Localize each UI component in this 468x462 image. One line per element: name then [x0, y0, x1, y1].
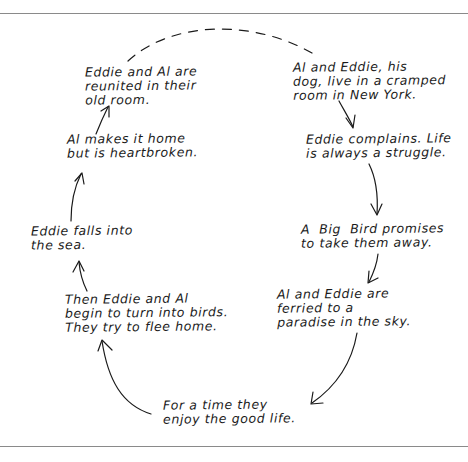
- node-text-line: old room.: [85, 92, 150, 108]
- node-al-home: Al makes it home but is heartbroken.: [67, 131, 198, 160]
- node-text-line: but is heartbroken.: [67, 144, 198, 160]
- node-text-line: paradise in the sky.: [277, 313, 411, 329]
- node-text-line: They try to flee home.: [65, 318, 218, 335]
- node-text-line: is always a struggle.: [306, 144, 447, 160]
- node-text-line: room in New York.: [293, 87, 417, 103]
- dashed-connector-n9-n1: [128, 29, 312, 61]
- node-eddie-complains: Eddie complains. Life is always a strugg…: [306, 131, 452, 161]
- node-start-new-york: Al and Eddie, his dog, live in a cramped…: [293, 59, 447, 103]
- node-turn-into-birds: Then Eddie and Al begin to turn into bir…: [65, 291, 229, 335]
- arrow-n1-n2: [339, 101, 353, 127]
- node-ferried-to-paradise: Al and Eddie are ferried to a paradise i…: [277, 286, 411, 329]
- node-reunited: Eddie and Al are reunited in their old r…: [85, 64, 198, 107]
- arrow-n5-n6-head: [98, 340, 112, 351]
- node-eddie-falls: Eddie falls into the sea.: [31, 223, 133, 252]
- arrow-n2-n3: [369, 164, 377, 214]
- arrow-n7-n8: [71, 174, 81, 221]
- arrow-n2-n3-head: [371, 204, 382, 215]
- arrow-n6-n7: [79, 262, 87, 291]
- arrow-n5-n6: [102, 341, 151, 414]
- arrow-n6-n7-head: [73, 261, 84, 272]
- node-text-line: to take them away.: [301, 234, 433, 250]
- node-big-bird: A Big Bird promises to take them away.: [301, 221, 445, 250]
- arrow-n4-n5: [312, 333, 357, 403]
- arrow-n3-n4: [369, 254, 378, 282]
- node-text-line: enjoy the good life.: [163, 410, 296, 426]
- node-good-life: For a time they enjoy the good life.: [163, 397, 296, 426]
- node-text-line: the sea.: [31, 237, 86, 253]
